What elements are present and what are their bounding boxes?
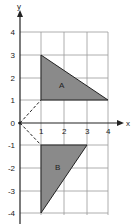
y-tick-neg3: -3	[8, 187, 16, 196]
y-tick-1: 1	[11, 96, 16, 105]
y-tick-2: 2	[11, 74, 16, 83]
dashed-line-lower	[20, 123, 41, 145]
x-tick-4: 4	[106, 127, 111, 136]
origin-point	[18, 121, 21, 124]
y-axis-arrow-icon	[17, 10, 23, 17]
y-tick-3: 3	[11, 51, 16, 60]
x-tick-1: 1	[39, 127, 44, 136]
triangle-a	[41, 55, 108, 100]
triangle-a-label: A	[59, 81, 65, 90]
coordinate-plane: y x 1 2 3 4 4 3 2 1 0 -1 -2 -3 -4 A B	[0, 0, 133, 224]
dashed-line-upper	[20, 100, 41, 123]
y-tick-0: 0	[11, 119, 16, 128]
x-tick-3: 3	[85, 127, 90, 136]
y-axis-label: y	[17, 2, 21, 11]
y-tick-neg1: -1	[8, 141, 16, 150]
y-tick-neg2: -2	[8, 164, 16, 173]
x-axis-arrow-icon	[117, 120, 124, 126]
triangle-b-label: B	[55, 163, 60, 172]
y-tick-4: 4	[11, 28, 16, 37]
x-tick-2: 2	[62, 127, 67, 136]
y-tick-neg4: -4	[8, 209, 16, 218]
x-axis-label: x	[126, 119, 130, 128]
